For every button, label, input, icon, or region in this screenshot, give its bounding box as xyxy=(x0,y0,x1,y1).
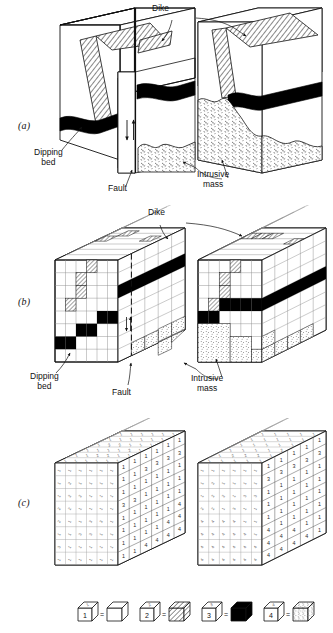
grid-cell-code: 1 xyxy=(122,489,125,495)
grid-cell-code: 1 xyxy=(133,484,136,490)
grid-cell-code: 1 xyxy=(267,463,270,469)
legend-pattern-cube-stippled xyxy=(293,602,314,621)
panel-c-right-block: 111111222111112111111111111111 111111121… xyxy=(198,418,326,565)
grid-cell-code: 3 xyxy=(133,497,136,503)
grid-cell-code: 1 xyxy=(133,548,136,554)
grid-cell-code: 1 xyxy=(122,476,125,482)
grid-cell-code: 3 xyxy=(167,455,170,461)
grid-cell-code: 1 xyxy=(267,514,270,520)
grid-cell-code: 1 xyxy=(293,514,296,520)
grid-cell-code: 3 xyxy=(280,469,283,475)
grid-cell-code: 4 xyxy=(267,552,270,558)
legend-equals-1: = xyxy=(100,611,104,618)
grid-cell-code: 3 xyxy=(144,466,147,472)
grid-cell-code: 1 xyxy=(305,520,308,526)
grid-cell-code: 1 xyxy=(305,444,308,450)
grid-cell-code: 1 xyxy=(133,471,136,477)
grid-cell-code: 1 xyxy=(280,457,283,463)
grid-cell-code: 4 xyxy=(167,532,170,538)
grid-cell-code: 1 xyxy=(156,511,159,517)
grid-cell-code: 1 xyxy=(318,437,321,443)
grid-cell-code: 1 xyxy=(305,469,308,475)
grid-cell-code: 1 xyxy=(267,489,270,495)
grid-cell-code: 4 xyxy=(267,527,270,533)
grid-cell-code: 1 xyxy=(280,520,283,526)
grid-cell-code: 3 xyxy=(267,476,270,482)
grid-cell-code: 4 xyxy=(156,537,159,543)
grid-cell-code: 4 xyxy=(280,533,283,539)
legend-code-cube-2: 22 xyxy=(140,602,160,621)
legend-code-cube-4: 44 xyxy=(264,602,284,621)
grid-cell-code: 1 xyxy=(156,486,159,492)
legend-equals-2: = xyxy=(162,611,166,618)
grid-cell-code: 1 xyxy=(133,509,136,515)
grid-cell-code: 1 xyxy=(267,501,270,507)
grid-cell-code: 3 xyxy=(305,457,308,463)
grid-cell-code: 1 xyxy=(122,553,125,559)
grid-cell-code: 1 xyxy=(133,458,136,464)
grid-cell-code: 3 xyxy=(293,463,296,469)
callout-dipping-bed-b: Dipping bed xyxy=(30,372,59,391)
grid-cell-code: 1 xyxy=(305,482,308,488)
grid-cell-code: 1 xyxy=(318,476,321,482)
grid-cell-code: 4 xyxy=(293,527,296,533)
grid-cell-code: 4 xyxy=(178,513,181,519)
grid-cell-code: 1 xyxy=(305,508,308,514)
grid-cell-code: 1 xyxy=(305,495,308,501)
grid-cell-code: 4 xyxy=(178,526,181,532)
grid-cell-code: 4 xyxy=(305,533,308,539)
grid-cell-code: 1 xyxy=(280,508,283,514)
grid-cell-code: 1 xyxy=(178,462,181,468)
callout-fault-a: Fault xyxy=(108,184,127,194)
legend-equals-3: = xyxy=(224,611,228,618)
legend-row: 11=22=33=44= xyxy=(0,588,333,633)
grid-cell-code: 1 xyxy=(293,501,296,507)
panel-a-right-block xyxy=(198,8,322,173)
legend-code-front-2: 2 xyxy=(145,612,149,619)
grid-cell-code: 1 xyxy=(167,493,170,499)
legend-pattern-cube-blank xyxy=(107,602,128,621)
grid-cell-code: 1 xyxy=(133,535,136,541)
figure-root: (a) (b) (c) xyxy=(0,0,333,633)
grid-cell-code: 1 xyxy=(144,504,147,510)
grid-cell-code: 1 xyxy=(293,489,296,495)
grid-cell-code: 3 xyxy=(178,450,181,456)
legend-code-front-3: 3 xyxy=(207,612,211,619)
grid-cell-code: 1 xyxy=(122,527,125,533)
grid-cell-code: 3 xyxy=(122,502,125,508)
grid-cell-code: 1 xyxy=(144,517,147,523)
grid-cell-code: 1 xyxy=(156,524,159,530)
legend-equals-4: = xyxy=(286,611,290,618)
panel-a-left-block xyxy=(60,8,195,173)
grid-cell-code: 1 xyxy=(156,473,159,479)
grid-cell-code: 1 xyxy=(178,475,181,481)
panel-c-diagram: 111111112211111121122111111111111111 111… xyxy=(0,418,333,583)
grid-cell-code: 1 xyxy=(318,488,321,494)
grid-cell-code: 1 xyxy=(280,495,283,501)
grid-cell-code: 1 xyxy=(156,499,159,505)
grid-cell-code: 3 xyxy=(156,460,159,466)
grid-cell-code: 1 xyxy=(178,488,181,494)
grid-cell-code: 1 xyxy=(167,468,170,474)
callout-dike-a: Dike xyxy=(152,4,169,14)
callout-dipping-bed-a: Dipping bed xyxy=(34,148,63,167)
grid-cell-code: 1 xyxy=(280,482,283,488)
legend-code-cube-3: 33 xyxy=(202,602,222,621)
legend-code-cube-1: 11 xyxy=(78,602,98,621)
grid-cell-code: 1 xyxy=(178,437,181,443)
grid-cell-code: 1 xyxy=(318,527,321,533)
callout-intrusive-mass-a: Intrusive mass xyxy=(197,170,229,189)
callout-intrusive-mass-b: Intrusive mass xyxy=(191,374,223,393)
grid-cell-code: 1 xyxy=(293,476,296,482)
legend-code-front-1: 1 xyxy=(83,612,87,619)
grid-cell-code: 1 xyxy=(122,540,125,546)
grid-cell-code: 4 xyxy=(280,546,283,552)
legend-pattern-cube-solid-black xyxy=(231,602,252,621)
grid-cell-code: 1 xyxy=(293,450,296,456)
grid-cell-code: 1 xyxy=(144,453,147,459)
grid-cell-code: 4 xyxy=(167,519,170,525)
legend-pattern-cube-hatched xyxy=(169,602,190,621)
grid-cell-code: 1 xyxy=(167,481,170,487)
grid-cell-code: 1 xyxy=(144,478,147,484)
grid-cell-code: 1 xyxy=(133,522,136,528)
